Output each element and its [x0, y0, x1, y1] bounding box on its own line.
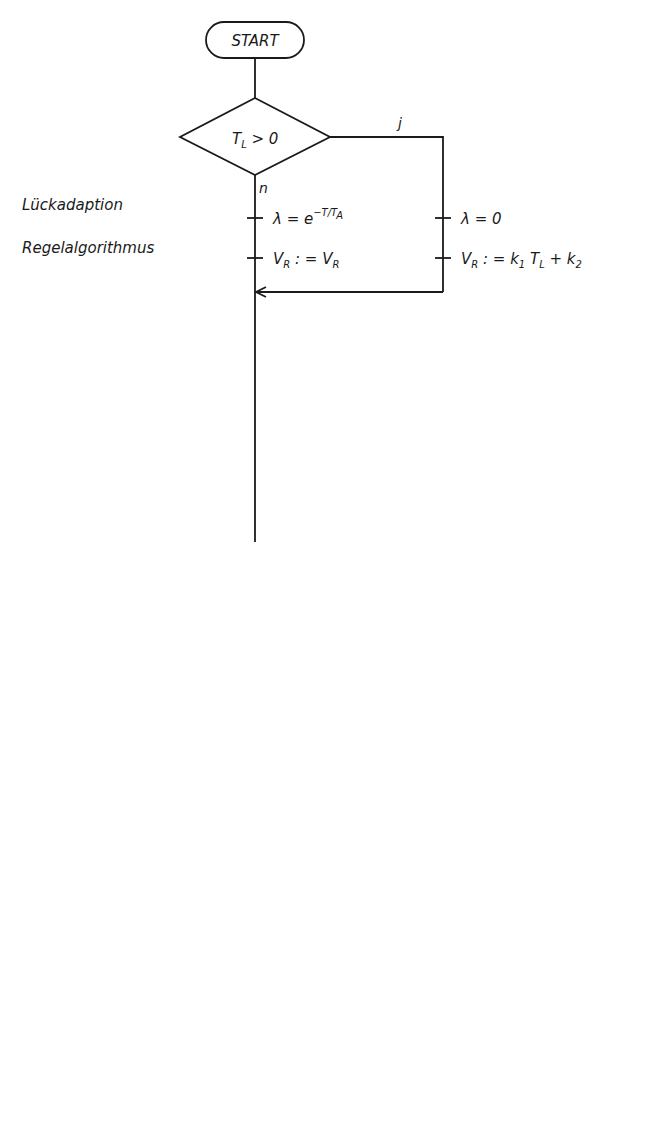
- decision-tl-positive: TL > 0: [180, 98, 330, 175]
- step-lambda-zero: λ = 0: [460, 210, 502, 228]
- step-vr-set: VR : = k1 TL + k2: [461, 250, 582, 270]
- step-lambda-exp: λ = e−T/TA: [272, 207, 343, 228]
- section-lueckadaption: Lückadaption: [22, 196, 123, 214]
- decision-text: TL > 0: [232, 130, 278, 150]
- start-label: START: [231, 32, 280, 50]
- no-label: n: [259, 180, 268, 196]
- yes-label: j: [396, 115, 402, 131]
- yes-branch-line: [330, 137, 443, 292]
- step-vr-keep: VR : = VR: [273, 250, 339, 270]
- section-regelalgorithmus: Regelalgorithmus: [22, 239, 154, 257]
- start-terminal: START: [206, 22, 304, 58]
- flowchart: START TL > 0 j n Lückadaption λ = e−T/TA…: [0, 0, 665, 1132]
